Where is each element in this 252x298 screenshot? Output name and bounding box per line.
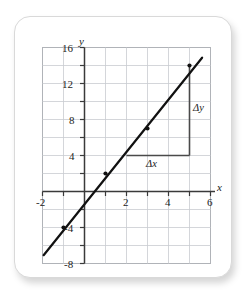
delta-x-label: Δx bbox=[146, 159, 157, 170]
x-tick-label-6: 6 bbox=[207, 197, 213, 208]
y-tick-label-neg4: -4 bbox=[64, 223, 73, 234]
x-axis-label: x bbox=[217, 182, 222, 193]
y-tick-label-neg8: -8 bbox=[64, 259, 73, 270]
y-tick-label-12: 12 bbox=[62, 79, 73, 90]
x-tick-label-2: 2 bbox=[123, 197, 129, 208]
data-point bbox=[103, 171, 107, 175]
y-tick-label-16: 16 bbox=[62, 43, 73, 54]
y-tick-label-4: 4 bbox=[69, 151, 75, 162]
y-axis-label: y bbox=[79, 36, 84, 47]
data-point bbox=[145, 126, 149, 130]
coordinate-plane-graph bbox=[0, 0, 252, 298]
x-tick-label-4: 4 bbox=[165, 197, 171, 208]
y-tick-label-8: 8 bbox=[69, 115, 75, 126]
delta-y-label: Δy bbox=[193, 103, 204, 114]
x-tick-label-neg2: -2 bbox=[36, 197, 45, 208]
data-point bbox=[187, 63, 191, 67]
